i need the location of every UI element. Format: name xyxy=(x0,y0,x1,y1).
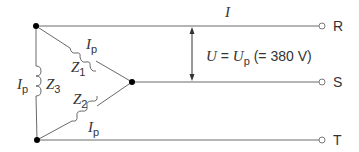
phase-voltage-symbol: U xyxy=(233,48,244,64)
voltage-symbol: U xyxy=(206,48,217,64)
terminal-t-label: T xyxy=(333,133,342,147)
voltage-value: (= 380 V) xyxy=(250,48,312,64)
voltage-arrow-icon xyxy=(190,27,195,81)
terminal-t-icon xyxy=(319,137,325,143)
impedance-subscript: 1 xyxy=(79,66,85,78)
terminal-s-label: S xyxy=(333,75,342,89)
node-right xyxy=(129,79,135,85)
current-subscript: p xyxy=(91,43,97,55)
terminal-s-icon xyxy=(319,79,325,85)
terminal-r-label: R xyxy=(333,19,343,33)
current-subscript: p xyxy=(22,83,28,95)
z3-current-label: Ip xyxy=(17,77,28,92)
z2-impedance-label: Z2 xyxy=(73,92,87,107)
z3-impedance-label: Z3 xyxy=(46,77,60,92)
current-subscript: p xyxy=(93,126,99,138)
impedance-subscript: 2 xyxy=(81,98,87,110)
terminal-r-icon xyxy=(319,23,325,29)
z3-coil-icon xyxy=(36,66,41,96)
voltage-equation: U = Up (= 380 V) xyxy=(206,48,312,64)
equals-sign: = xyxy=(217,48,233,64)
phase-voltage-subscript: p xyxy=(244,55,250,67)
node-top-left xyxy=(33,23,39,29)
line-current-label: I xyxy=(225,5,230,20)
impedance-subscript: 3 xyxy=(54,83,60,95)
z3-branch xyxy=(36,26,41,140)
line-current-symbol: I xyxy=(225,4,230,20)
z2-current-label: Ip xyxy=(88,120,99,135)
z1-current-label: Ip xyxy=(86,37,97,52)
z1-impedance-label: Z1 xyxy=(71,60,85,75)
node-bottom-left xyxy=(34,137,40,143)
